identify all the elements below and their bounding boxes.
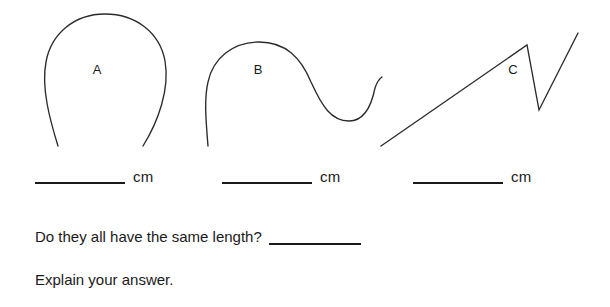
measurement-blank-b: cm — [222, 168, 340, 184]
measurement-blank-a: cm — [35, 168, 153, 184]
unit-label-c: cm — [511, 169, 531, 184]
curve-c-label: C — [508, 62, 517, 77]
curve-a-path — [45, 14, 167, 146]
curve-c-path — [381, 33, 578, 146]
curve-b-label: B — [254, 62, 263, 77]
measurement-blank-c: cm — [413, 168, 531, 184]
question-same-length-text: Do they all have the same length? — [35, 228, 262, 245]
unit-label-a: cm — [133, 169, 153, 184]
curve-a-label: A — [93, 62, 102, 77]
curves-illustration: A B C — [0, 0, 610, 160]
length-input-b[interactable] — [222, 168, 312, 184]
question-explain: Explain your answer. — [35, 271, 173, 288]
question-explain-text: Explain your answer. — [35, 271, 173, 288]
measurement-blanks-row: cm cm cm — [0, 168, 610, 198]
worksheet-page: A B C cm cm cm Do they all have the same… — [0, 0, 610, 307]
unit-label-b: cm — [320, 169, 340, 184]
curve-b-path — [206, 42, 382, 146]
length-input-a[interactable] — [35, 168, 125, 184]
same-length-answer-input[interactable] — [269, 230, 361, 245]
length-input-c[interactable] — [413, 168, 503, 184]
question-same-length: Do they all have the same length? — [35, 228, 361, 245]
